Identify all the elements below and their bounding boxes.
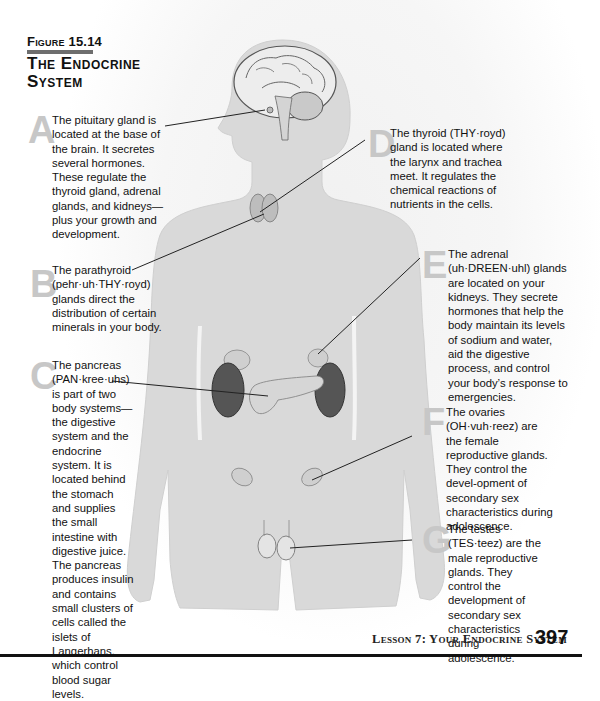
callout-ovaries: The ovaries (OH·vuh·reez) are the female… [446,405,556,534]
bottom-rule [0,654,582,657]
callout-pituitary: The pituitary gland is located at the ba… [52,113,170,242]
callout-thyroid: The thyroid (THY·royd) gland is located … [390,126,518,212]
callout-parathyroid: The parathyroid (pehr·uh·THY·royd) gland… [52,263,164,334]
callout-letter-e: E [422,246,447,284]
callout-adrenal: The adrenal (uh·DREEN·uhl) glands are lo… [448,247,570,404]
page-number: 397 [535,626,568,649]
callout-pancreas: The pancreas (PAN·kree·uhs) is part of t… [52,358,134,701]
figure-title: The Endocrine System [27,55,197,91]
callout-letter-f: F [422,403,445,441]
figure-label: Figure 15.14 [27,34,102,49]
